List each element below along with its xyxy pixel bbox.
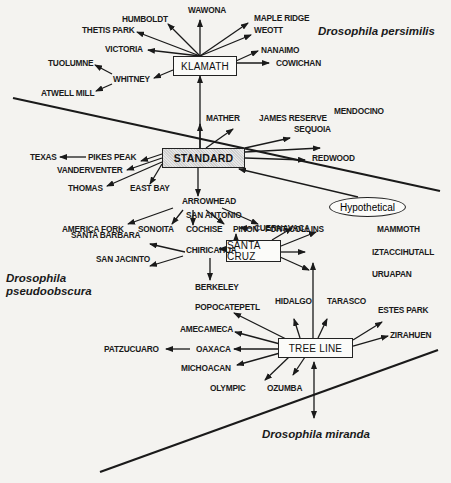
- leaf-fort-collins: FORT COLLINS: [265, 224, 324, 234]
- leaf-tarasco: TARASCO: [327, 296, 366, 306]
- species-label-miranda: Drosophila miranda: [262, 428, 370, 441]
- leaf-berkeley: BERKELEY: [195, 282, 239, 292]
- leaf-wawona: WAWONA: [188, 5, 226, 15]
- leaf-east-bay: EAST BAY: [130, 183, 170, 193]
- leaf-popocatepetl: POPOCATEPETL: [195, 302, 260, 312]
- leaf-iztaccihutall: IZTACCIHUTALL: [372, 247, 434, 257]
- node-klamath: KLAMATH: [173, 56, 237, 76]
- leaf-hidalgo: HIDALGO: [275, 296, 312, 306]
- node-pikes-peak: PIKES PEAK: [88, 152, 136, 162]
- leaf-thetis-park: THETIS PARK: [82, 25, 135, 35]
- leaf-mammoth: MAMMOTH: [377, 224, 420, 234]
- leaf-mendocino: MENDOCINO: [334, 106, 384, 116]
- leaf-sonoita: SONOITA: [138, 224, 174, 234]
- species-label-pseudoobscura-line1: Drosophila: [6, 272, 66, 285]
- leaf-james-reserve: JAMES RESERVE: [259, 113, 327, 123]
- leaf-nanaimo: NANAIMO: [261, 45, 299, 55]
- leaf-olympic: OLYMPIC: [210, 383, 246, 393]
- leaf-weott: WEOTT: [254, 25, 283, 35]
- leaf-michoacan: MICHOACAN: [181, 363, 231, 373]
- leaf-pinon: PINON: [233, 224, 258, 234]
- leaf-amecameca: AMECAMECA: [180, 324, 233, 334]
- leaf-ozumba: OZUMBA: [267, 383, 302, 393]
- node-standard: STANDARD: [162, 148, 245, 168]
- node-chiricahua: CHIRICAHUA: [186, 245, 237, 255]
- leaf-cowichan: COWICHAN: [276, 58, 321, 68]
- leaf-atwell-mill: ATWELL MILL: [41, 88, 94, 98]
- leaf-victoria: VICTORIA: [105, 44, 143, 54]
- leaf-thomas: THOMAS: [68, 183, 103, 193]
- leaf-vanderventer: VANDERVENTER: [57, 165, 123, 175]
- leaf-texas: TEXAS: [30, 152, 57, 162]
- species-label-pseudoobscura-line2: pseudoobscura: [6, 285, 92, 298]
- leaf-uruapan: URUAPAN: [372, 269, 411, 279]
- leaf-sequoia: SEQUOIA: [294, 124, 331, 134]
- leaf-humboldt: HUMBOLDT: [122, 14, 168, 24]
- leaf-mather: MATHER: [206, 113, 240, 123]
- leaf-maple-ridge: MAPLE RIDGE: [254, 13, 309, 23]
- node-whitney: WHITNEY: [113, 74, 150, 84]
- leaf-patzcuaro: PATZUCUARO: [104, 344, 159, 354]
- species-boundary-lower: [100, 350, 438, 472]
- node-oaxaca: OAXACA: [196, 344, 231, 354]
- leaf-san-jacinto: SAN JACINTO: [96, 254, 150, 264]
- leaf-redwood: REDWOOD: [312, 153, 355, 163]
- leaf-cochise: COCHISE: [186, 224, 222, 234]
- node-tree-line: TREE LINE: [278, 338, 353, 358]
- leaf-estes-park: ESTES PARK: [378, 305, 428, 315]
- leaf-santa-barbara: SANTA BARBARA: [71, 230, 140, 240]
- node-hypothetical: Hypothetical: [329, 197, 406, 217]
- node-arrowhead: ARROWHEAD: [182, 196, 236, 206]
- species-label-persimilis: Drosophila persimilis: [318, 25, 435, 38]
- phylogeny-diagram: Drosophila persimilis Drosophila pseudoo…: [0, 0, 451, 483]
- leaf-tuolumne: TUOLUMNE: [48, 58, 93, 68]
- leaf-san-antonio: SAN ANTONIO: [186, 210, 241, 220]
- leaf-zirahuen: ZIRAHUEN: [390, 330, 431, 340]
